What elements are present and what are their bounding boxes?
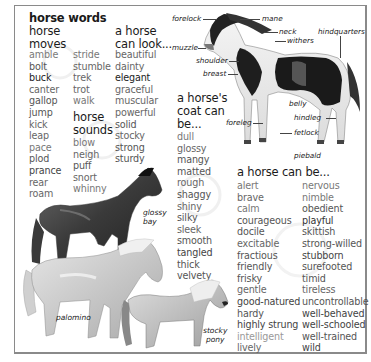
stocky-pony-illustration [0, 0, 371, 362]
caption-stocky-pony: stocky pony [203, 326, 227, 344]
